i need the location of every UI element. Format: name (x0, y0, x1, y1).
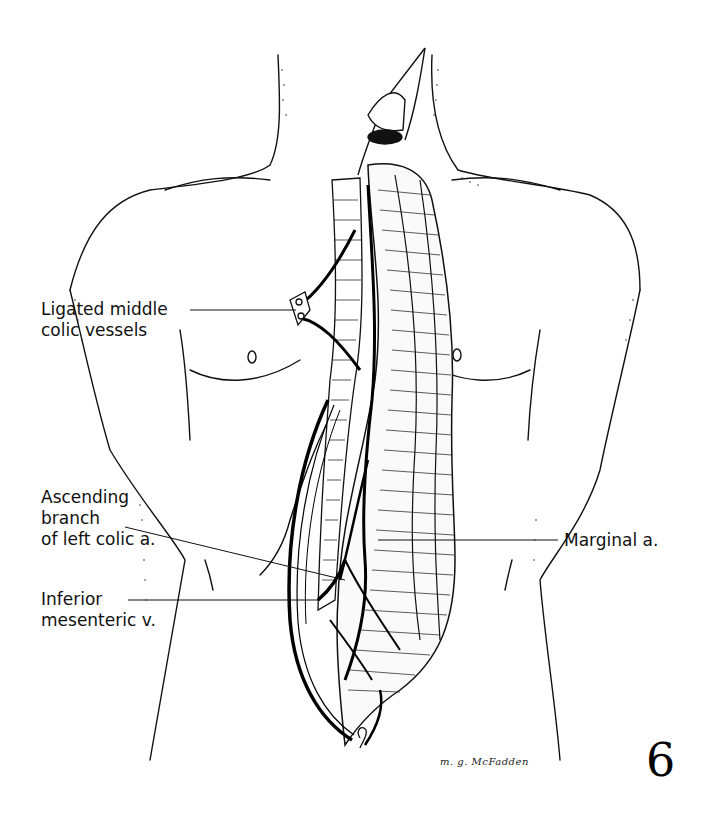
esophagus-stump (358, 48, 425, 175)
label-line: branch (41, 508, 156, 529)
label-line: Inferior (41, 589, 156, 610)
armpit-right (528, 330, 540, 440)
armpit-left (180, 330, 190, 440)
leader-ascending-branch (125, 527, 345, 580)
label-line: Ascending (41, 487, 156, 508)
artist-signature: m. g. McFadden (440, 756, 529, 767)
nipple-left (248, 351, 256, 363)
waist-right (505, 560, 512, 590)
clavicle-left (165, 178, 270, 190)
label-ligated-middle-colic-vessels: Ligated middle colic vessels (41, 299, 168, 341)
figure-number: 6 (646, 733, 675, 787)
neck-outline-left (70, 55, 280, 290)
label-ascending-branch-left-colic: Ascending branch of left colic a. (41, 487, 156, 550)
label-line: mesenteric v. (41, 610, 156, 631)
label-line: Ligated middle (41, 299, 168, 320)
label-line: of left colic a. (41, 529, 156, 550)
anatomical-illustration (0, 0, 711, 826)
torso-right (540, 290, 640, 760)
label-marginal-artery: Marginal a. (564, 530, 658, 551)
label-line: Marginal a. (564, 530, 658, 551)
pectoral-left (190, 360, 300, 380)
nipple-right (453, 349, 461, 361)
neck-outline-right (432, 55, 640, 290)
label-inferior-mesenteric-vein: Inferior mesenteric v. (41, 589, 156, 631)
waist-left (205, 560, 213, 590)
label-line: colic vessels (41, 320, 168, 341)
